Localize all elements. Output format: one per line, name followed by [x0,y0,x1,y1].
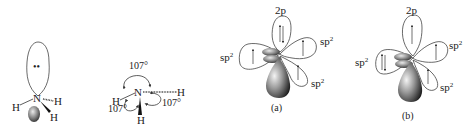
back-lobe-upper [394,53,412,61]
lone-pair-dots: •• [33,61,40,72]
orbital-sp2-right-label: sp2 [449,39,463,51]
nitrogen-atom: N [33,92,41,104]
angle-bottom-left: 107° [108,103,127,114]
hydrogen-bottom: H [137,114,145,126]
angle-top: 107° [129,60,148,71]
bond-right-hashed [43,99,54,101]
orbital-sp2-right-lobe [280,38,316,59]
bond-left [120,93,135,100]
ammonia-bond-angle-panel: 107° N H H 107° 107° H [108,60,185,126]
nitrogen-atom: N [134,86,142,98]
orbital-sp2-lower-right-label: sp2 [311,77,325,89]
orbital-sp2-right-label: sp2 [320,35,334,47]
panel-caption: (b) [402,110,414,122]
hydrogen-right: H [54,95,62,107]
orbital-2p-label: 2p [406,4,418,16]
bond-left [20,99,33,105]
hydrogen-bottom: H [50,111,58,123]
large-shaded-lobe [398,62,422,102]
back-lobe [28,106,40,122]
orbital-sp2-left-label: sp2 [355,56,369,68]
orbital-sp2-lower-right-label: sp2 [440,81,454,93]
back-lobe-upper [262,48,280,56]
large-shaded-lobe [266,58,290,98]
angle-arc-right [146,93,161,105]
panel-a: 2p sp2 sp2 sp2 (a) [220,4,334,114]
hydrogen-left: H [12,101,20,113]
ammonia-lone-pair-panel: •• N H H H [12,42,62,123]
orbital-2p-label: 2p [275,4,287,16]
orbital-sp2-left-label: sp2 [220,51,234,63]
bond-wedge [138,97,142,115]
orbital-sp2-right-lobe [413,42,448,63]
orbital-diagram: •• N H H H 107° N H H 107° 107° H 2p sp2 [0,0,472,131]
panel-b: 2p sp2 sp2 sp2 (b) [355,4,463,122]
panel-caption: (a) [271,102,282,114]
angle-right: 107° [162,97,181,108]
